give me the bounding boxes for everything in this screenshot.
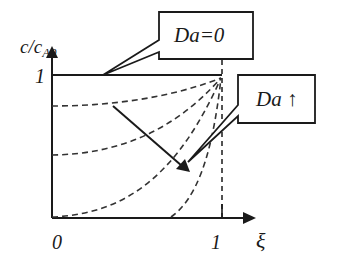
trend-arrow-line: [113, 106, 182, 166]
concentration-profile-diagram: c/cA0 1 0 1 ξ Da=0 Da ↑: [0, 0, 339, 269]
y-axis-label-subscript: A0: [42, 45, 56, 60]
da-increase-label: Da ↑: [256, 89, 297, 110]
profile-curve-2: [52, 78, 221, 155]
x-tick-0-label: 0: [52, 232, 62, 252]
profile-curve-1: [52, 78, 221, 106]
da-zero-label: Da=0: [174, 25, 224, 46]
x-axis-label: ξ: [256, 230, 265, 252]
y-axis-label: c/cA0: [20, 37, 57, 59]
y-axis-label-main: c/c: [20, 36, 42, 57]
y-axis: [46, 46, 58, 218]
y-tick-1-label: 1: [35, 66, 45, 86]
x-axis-arrow-icon: [243, 212, 256, 224]
x-tick-1-label: 1: [211, 232, 221, 252]
dashed-profile-curves: [52, 78, 221, 217]
profile-curve-4: [171, 78, 221, 217]
profile-curve-3: [52, 78, 221, 217]
